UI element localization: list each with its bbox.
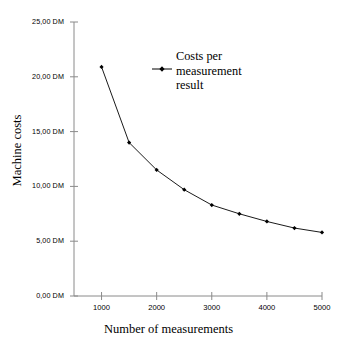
y-axis-tick-label: 20,00 DM [0, 72, 64, 81]
data-point-marker [265, 219, 269, 223]
legend-line-marker-icon [152, 65, 172, 73]
y-axis-tick-label: 25,00 DM [0, 17, 64, 26]
legend-label-line-1: Costs per [176, 49, 296, 64]
data-point-marker [210, 203, 214, 207]
data-point-marker [292, 226, 296, 230]
y-axis-tick-label: 0,00 DM [0, 291, 64, 300]
data-point-marker [320, 230, 324, 234]
chart-legend: Costs per measurement result [176, 49, 296, 93]
x-axis-tick-label: 5000 [297, 303, 337, 312]
y-axis-title: Machine costs [10, 91, 25, 211]
data-point-marker [99, 65, 103, 69]
y-axis-tick-label: 5,00 DM [0, 236, 64, 245]
x-axis-tick-label: 1000 [77, 303, 127, 312]
data-point-marker [237, 212, 241, 216]
chart-container: 0,00 DM5,00 DM10,00 DM15,00 DM20,00 DM25… [0, 0, 337, 350]
x-axis-tick-label: 2000 [132, 303, 182, 312]
legend-label-line-3: result [176, 78, 296, 93]
x-axis-title: Number of measurements [0, 322, 337, 337]
legend-label-line-2: measurement [176, 64, 296, 79]
x-axis-tick-label: 3000 [187, 303, 237, 312]
x-axis-tick-label: 4000 [242, 303, 292, 312]
